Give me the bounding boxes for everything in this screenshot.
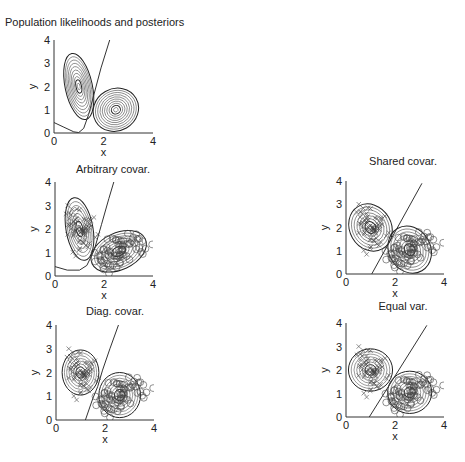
panel-arbitrary: Arbitrary covar.02401234xy [27, 163, 156, 301]
y-tick-label: 3 [45, 200, 51, 212]
y-tick-label: 3 [46, 343, 52, 355]
y-tick-label: 1 [336, 388, 342, 400]
y-tick-label: 0 [45, 270, 51, 282]
y-tick-label: 0 [44, 127, 50, 139]
x-axis-label: x [101, 146, 107, 158]
y-tick-label: 1 [45, 247, 51, 259]
x-tick-label: 0 [51, 135, 57, 147]
x-tick-label: 4 [441, 419, 447, 431]
y-tick-label: 3 [336, 341, 342, 353]
figure: Population likelihoods and posteriors024… [0, 0, 465, 462]
x-tick-label: 4 [150, 135, 156, 147]
samples [65, 347, 157, 421]
y-axis-label: y [27, 226, 39, 232]
plot-area [55, 182, 156, 280]
y-tick-label: 4 [45, 176, 51, 188]
x-axis-label: x [102, 433, 108, 445]
y-tick-label: 1 [336, 245, 342, 257]
y-tick-label: 0 [336, 411, 342, 423]
panel-title: Population likelihoods and posteriors [5, 16, 185, 28]
y-tick-label: 2 [336, 364, 342, 376]
y-tick-label: 2 [44, 81, 50, 93]
x-axis-label: x [392, 430, 398, 442]
plot-area [54, 40, 147, 140]
x-tick-label: 4 [150, 278, 156, 290]
x-tick-label: 4 [151, 422, 157, 434]
contour-class-2 [85, 80, 146, 140]
y-tick-label: 4 [336, 317, 342, 329]
panel-shared: Shared covar.02401234xy [318, 155, 447, 299]
x-tick-label: 0 [343, 276, 349, 288]
x-tick-label: 0 [343, 419, 349, 431]
panel-population: Population likelihoods and posteriors024… [5, 16, 185, 158]
x-axis-label: x [101, 289, 107, 301]
y-tick-label: 4 [46, 319, 52, 331]
y-tick-label: 0 [336, 268, 342, 280]
x-tick-label: 4 [441, 276, 447, 288]
x-axis-label: x [392, 287, 398, 299]
y-tick-label: 1 [46, 390, 52, 402]
panel-title: Arbitrary covar. [76, 163, 150, 175]
y-tick-label: 1 [44, 104, 50, 116]
y-tick-label: 0 [46, 414, 52, 426]
panel-title: Equal var. [379, 300, 428, 312]
panel-title: Diag. covar. [86, 305, 144, 317]
y-tick-label: 4 [336, 175, 342, 187]
y-tick-label: 2 [46, 367, 52, 379]
plot-area [340, 183, 446, 281]
plot-area [62, 325, 156, 421]
y-axis-label: y [28, 369, 40, 375]
contour-class-1-x- [348, 349, 392, 391]
y-axis-label: y [318, 224, 330, 230]
x-tick-label: 0 [52, 278, 58, 290]
y-axis-label: y [318, 367, 330, 373]
y-tick-label: 2 [45, 223, 51, 235]
y-tick-label: 3 [44, 57, 50, 69]
y-axis-label: y [26, 83, 38, 89]
y-tick-label: 4 [44, 34, 50, 46]
x-tick-label: 0 [53, 422, 59, 434]
plot-area [348, 325, 446, 418]
panel-equal: Equal var.02401234xy [318, 300, 447, 442]
y-tick-label: 3 [336, 198, 342, 210]
panel-diagonal: Diag. covar.02401234xy [28, 305, 157, 445]
y-tick-label: 2 [336, 222, 342, 234]
panel-title: Shared covar. [369, 155, 437, 167]
samples [355, 344, 447, 418]
